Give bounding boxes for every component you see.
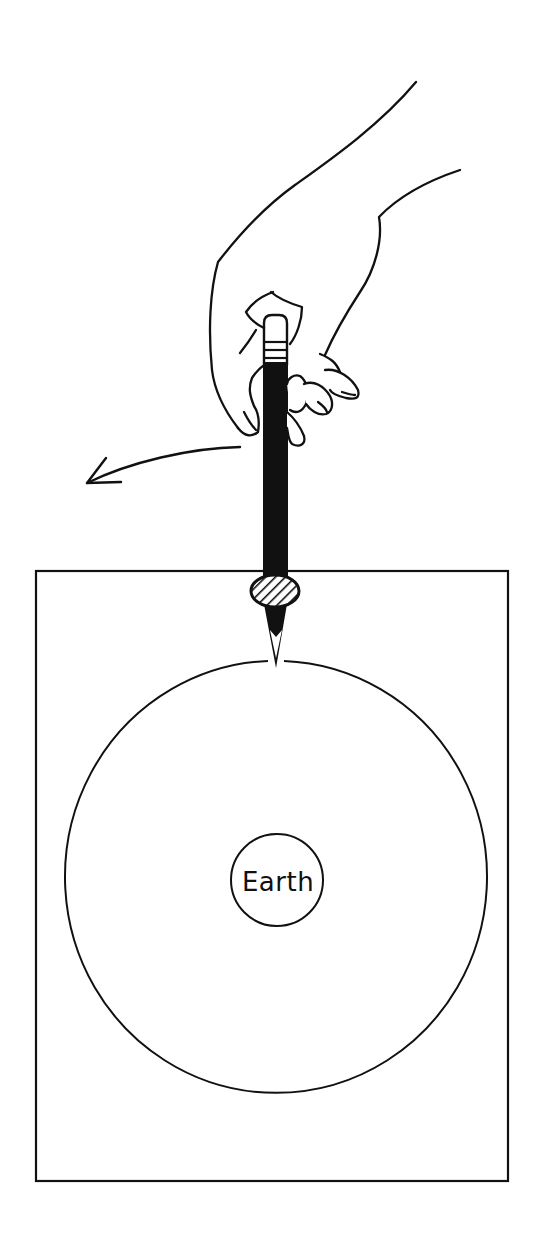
earth-label: Earth — [242, 867, 314, 897]
motion-arrow-icon — [87, 447, 240, 483]
illustration-canvas: Earth — [0, 0, 549, 1242]
pushpin-icon — [251, 575, 299, 607]
pencil-icon — [263, 315, 288, 668]
hand-icon — [210, 82, 460, 446]
